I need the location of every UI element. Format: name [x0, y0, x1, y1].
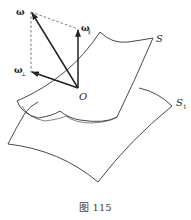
label-omega-perp-sub: ⊥: [21, 71, 26, 77]
figure-caption: 图 115: [0, 199, 191, 214]
label-surface-s1-sub: 1: [183, 103, 187, 110]
label-omega-parallel-sub: ∥: [88, 29, 91, 35]
label-surface-s1: S: [176, 97, 183, 108]
label-omega: ω: [16, 7, 25, 17]
label-surface-s: S: [156, 33, 163, 44]
surface-s: [17, 32, 153, 123]
omega-vector: [32, 13, 78, 88]
label-origin: O: [79, 91, 87, 102]
vectors: [32, 13, 78, 88]
omega-perp-vector: [32, 72, 78, 88]
surface-s1: [8, 88, 172, 182]
diagram-canvas: ω ω ∥ ω ⊥ O S S 1: [0, 0, 191, 220]
